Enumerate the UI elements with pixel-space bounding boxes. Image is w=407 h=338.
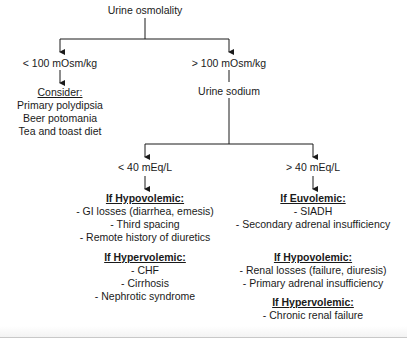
list-item: - SIADH (294, 205, 333, 218)
list-item: - Cirrhosis (121, 277, 169, 290)
list-item: - CHF (131, 264, 159, 277)
list-item: - Third spacing (110, 218, 179, 231)
list-item: - Renal losses (failure, diuresis) (239, 264, 386, 277)
high-sodium-hypervolemic-heading: If Hypervolemic: (272, 296, 354, 309)
consider-item: Primary polydipsia (17, 99, 103, 112)
page-bottom-edge (0, 326, 407, 338)
list-item: - GI losses (diarrhea, emesis) (76, 205, 214, 218)
consider-heading: Consider: (38, 86, 83, 99)
node-low-sodium: < 40 mEq/L (118, 161, 172, 174)
low-sodium-hypervolemic-heading: If Hypervolemic: (104, 251, 186, 264)
high-sodium-hypovolemic-heading: If Hypovolemic: (274, 251, 352, 264)
low-sodium-hypovolemic-heading: If Hypovolemic: (106, 192, 184, 205)
list-item: - Nephrotic syndrome (95, 290, 195, 303)
list-item: - Primary adrenal insufficiency (243, 277, 383, 290)
consider-item: Tea and toast diet (19, 125, 102, 138)
node-high-sodium: > 40 mEq/L (286, 161, 340, 174)
root-node-urine-osmolality: Urine osmolality (108, 4, 183, 17)
list-item: - Remote history of diuretics (80, 231, 211, 244)
node-urine-sodium: Urine sodium (198, 85, 260, 98)
node-high-osmolality: > 100 mOsm/kg (192, 57, 266, 70)
high-sodium-euvolemic-heading: If Euvolemic: (280, 192, 345, 205)
list-item: - Secondary adrenal insufficiency (236, 218, 390, 231)
list-item: - Chronic renal failure (263, 309, 363, 322)
node-low-osmolality: < 100 mOsm/kg (23, 57, 97, 70)
consider-item: Beer potomania (23, 112, 97, 125)
